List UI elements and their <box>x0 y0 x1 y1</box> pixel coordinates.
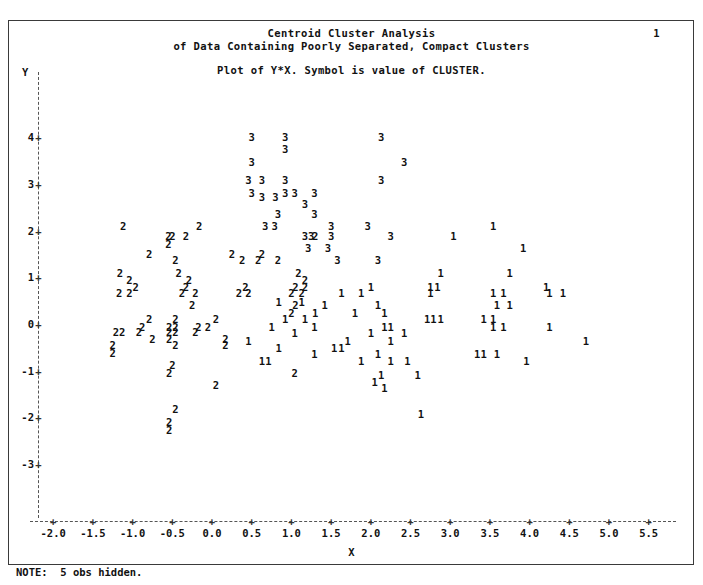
data-point-symbol-2: 2 <box>255 255 261 266</box>
data-point-symbol-3: 3 <box>272 221 278 232</box>
y-axis-tick-label: -3 <box>6 458 34 470</box>
x-axis-line <box>30 521 676 522</box>
data-point-symbol-1: 1 <box>404 356 410 367</box>
data-point-symbol-3: 3 <box>364 221 370 232</box>
data-point-symbol-3: 3 <box>282 132 288 143</box>
data-point-symbol-2: 2 <box>172 340 178 351</box>
data-point-symbol-1: 1 <box>490 322 496 333</box>
data-point-symbol-2: 2 <box>117 267 123 278</box>
data-point-symbol-1: 1 <box>302 314 308 325</box>
x-axis-tick-label: 1.0 <box>271 527 311 539</box>
data-point-symbol-2: 2 <box>222 340 228 351</box>
x-axis-tick-mark: + <box>328 515 334 527</box>
x-axis-tick-label: 1.5 <box>311 527 351 539</box>
data-point-symbol-3: 3 <box>328 231 334 242</box>
data-point-symbol-2: 2 <box>179 288 185 299</box>
data-point-symbol-2: 2 <box>165 238 171 249</box>
data-point-symbol-1: 1 <box>500 288 506 299</box>
data-point-symbol-2: 2 <box>126 288 132 299</box>
data-point-symbol-1: 1 <box>372 377 378 388</box>
data-point-symbol-2: 2 <box>133 281 139 292</box>
data-point-symbol-3: 3 <box>387 231 393 242</box>
data-point-symbol-1: 1 <box>418 408 424 419</box>
y-axis-tick-label: 3 <box>6 178 34 190</box>
data-point-symbol-1: 1 <box>368 328 374 339</box>
data-point-symbol-2: 2 <box>239 255 245 266</box>
x-axis-tick-mark: + <box>526 515 532 527</box>
data-point-symbol-3: 3 <box>275 209 281 220</box>
data-point-symbol-2: 2 <box>229 249 235 260</box>
data-point-symbol-3: 3 <box>378 132 384 143</box>
y-axis-tick-mark: + <box>35 178 42 190</box>
x-axis-title: X <box>0 546 703 558</box>
x-axis-tick-label: -1.0 <box>113 527 153 539</box>
data-point-symbol-1: 1 <box>276 343 282 354</box>
data-point-symbol-1: 1 <box>282 314 288 325</box>
y-axis-tick-mark: + <box>35 365 42 377</box>
x-axis-tick-label: 4.0 <box>510 527 550 539</box>
data-point-symbol-3: 3 <box>282 144 288 155</box>
data-point-symbol-1: 1 <box>387 322 393 333</box>
data-point-symbol-2: 2 <box>192 288 198 299</box>
data-point-symbol-1: 1 <box>401 328 407 339</box>
data-point-symbol-1: 1 <box>245 336 251 347</box>
data-point-symbol-3: 3 <box>325 243 331 254</box>
data-point-symbol-1: 1 <box>480 314 486 325</box>
x-axis-tick-mark: + <box>487 515 493 527</box>
data-point-symbol-3: 3 <box>282 175 288 186</box>
data-point-symbol-1: 1 <box>414 370 420 381</box>
data-point-symbol-3: 3 <box>291 188 297 199</box>
data-point-symbol-1: 1 <box>438 314 444 325</box>
data-point-symbol-3: 3 <box>262 221 268 232</box>
data-point-symbol-1: 1 <box>507 267 513 278</box>
x-axis-tick-label: 0.0 <box>192 527 232 539</box>
x-axis-tick-mark: + <box>90 515 96 527</box>
data-point-symbol-1: 1 <box>546 322 552 333</box>
x-axis-tick-label: 3.0 <box>430 527 470 539</box>
data-point-symbol-1: 1 <box>312 308 318 319</box>
data-point-symbol-1: 1 <box>299 296 305 307</box>
data-point-symbol-1: 1 <box>311 322 317 333</box>
data-point-symbol-1: 1 <box>438 267 444 278</box>
data-point-symbol-2: 2 <box>288 308 294 319</box>
data-point-symbol-1: 1 <box>490 221 496 232</box>
data-point-symbol-3: 3 <box>259 175 265 186</box>
x-axis-tick-mark: + <box>50 515 56 527</box>
data-point-symbol-1: 1 <box>546 288 552 299</box>
data-point-symbol-3: 3 <box>302 199 308 210</box>
x-axis-tick-label: 4.5 <box>549 527 589 539</box>
data-point-symbol-1: 1 <box>523 356 529 367</box>
data-point-symbol-2: 2 <box>119 327 125 338</box>
data-point-symbol-2: 2 <box>120 221 126 232</box>
data-point-symbol-1: 1 <box>331 343 337 354</box>
data-point-symbol-3: 3 <box>334 255 340 266</box>
y-axis-tick-label: 4 <box>6 131 34 143</box>
y-axis-tick-label: 0 <box>6 318 34 330</box>
data-point-symbol-1: 1 <box>490 288 496 299</box>
note-text: NOTE: 5 obs hidden. <box>16 566 142 578</box>
data-point-symbol-1: 1 <box>265 356 271 367</box>
data-point-symbol-1: 1 <box>378 370 384 381</box>
data-point-symbol-1: 1 <box>345 336 351 347</box>
data-point-symbol-1: 1 <box>338 343 344 354</box>
data-point-symbol-3: 3 <box>259 192 265 203</box>
y-axis-tick-label: 1 <box>6 271 34 283</box>
x-axis-tick-mark: + <box>249 515 255 527</box>
data-point-symbol-2: 2 <box>116 288 122 299</box>
y-axis-tick-mark: + <box>35 271 42 283</box>
x-axis-tick-label: 2.5 <box>391 527 431 539</box>
data-point-symbol-1: 1 <box>358 288 364 299</box>
data-point-symbol-2: 2 <box>110 348 116 359</box>
data-point-symbol-2: 2 <box>196 221 202 232</box>
x-axis-tick-label: -1.5 <box>73 527 113 539</box>
x-axis-tick-label: 2.0 <box>351 527 391 539</box>
data-point-symbol-2: 2 <box>275 255 281 266</box>
data-point-symbol-2: 2 <box>166 425 172 436</box>
data-point-symbol-2: 2 <box>245 288 251 299</box>
x-axis-tick-label: 5.0 <box>589 527 629 539</box>
x-axis-tick-mark: + <box>129 515 135 527</box>
data-point-symbol-1: 1 <box>276 296 282 307</box>
x-axis-tick-mark: + <box>368 515 374 527</box>
data-point-symbol-2: 2 <box>312 231 318 242</box>
data-point-symbol-3: 3 <box>282 188 288 199</box>
